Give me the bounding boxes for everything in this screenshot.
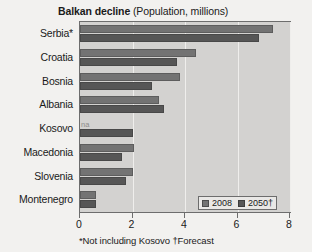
- bar-2008-croatia: [80, 49, 196, 57]
- bar-2050-montenegro: [80, 200, 96, 208]
- y-axis-label: Slovenia: [34, 164, 73, 188]
- legend-label: 2008: [212, 198, 232, 208]
- chart-footnote: *Not including Kosovo †Forecast: [79, 235, 214, 247]
- x-axis-tick-label: 6: [234, 218, 240, 231]
- bar-2050-serbia: [80, 34, 259, 42]
- y-axis-label: Bosnia: [42, 69, 73, 93]
- bar-2008-serbia: [80, 25, 273, 33]
- bar-2008-slovenia: [80, 168, 133, 176]
- y-axis-label: Montenegro: [19, 187, 73, 211]
- bar-2050-slovenia: [80, 177, 126, 185]
- bar-row: na: [80, 117, 290, 141]
- x-axis: 02468: [79, 213, 291, 237]
- y-axis-labels: Serbia*CroatiaBosniaAlbaniaKosovoMacedon…: [0, 21, 76, 213]
- bar-row: [80, 141, 290, 165]
- bar-row: [80, 93, 290, 117]
- y-axis-label: Kosovo: [39, 116, 73, 140]
- bar-2050-macedonia: [80, 153, 122, 161]
- x-axis-tick-label: 2: [129, 218, 135, 231]
- chart-legend: 20082050†: [198, 196, 277, 210]
- bar-2050-bosnia: [80, 82, 152, 90]
- bar-row: [80, 22, 290, 46]
- bar-2008-albania: [80, 96, 159, 104]
- bar-2008-bosnia: [80, 73, 180, 81]
- bar-rows: na: [80, 22, 290, 212]
- page-title: Balkan decline (Population, millions): [58, 5, 228, 17]
- x-axis-tick-label: 8: [286, 218, 292, 231]
- legend-item: 2050†: [238, 198, 273, 208]
- chart-title-main: Balkan decline: [58, 5, 130, 17]
- gridline-8: [290, 22, 291, 212]
- x-axis-tick-label: 4: [181, 218, 187, 231]
- bar-2008-macedonia: [80, 144, 134, 152]
- y-axis-label: Croatia: [41, 45, 73, 69]
- y-axis-label: Serbia*: [40, 21, 73, 45]
- bar-row: [80, 165, 290, 189]
- legend-item: 2008: [202, 198, 232, 208]
- bar-2050-kosovo: [80, 129, 133, 137]
- bar-2050-croatia: [80, 58, 177, 66]
- bar-2008-montenegro: [80, 191, 96, 199]
- legend-swatch-icon: [238, 200, 245, 207]
- y-axis-label: Albania: [39, 92, 73, 116]
- legend-swatch-icon: [202, 200, 209, 207]
- bar-2050-albania: [80, 105, 164, 113]
- bar-row: [80, 70, 290, 94]
- y-axis-label: Macedonia: [23, 140, 73, 164]
- x-axis-tick-label: 0: [76, 218, 82, 231]
- chart-title-sub: (Population, millions): [130, 5, 228, 17]
- bar-row: [80, 46, 290, 70]
- legend-label: 2050†: [248, 198, 273, 208]
- chart-plot-area: na 20082050†: [79, 21, 291, 213]
- bar-value-label: na: [81, 120, 89, 129]
